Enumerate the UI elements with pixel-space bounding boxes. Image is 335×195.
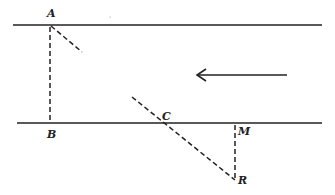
dashed-line-A-diagonal bbox=[51, 26, 82, 52]
dashed-line-C-R bbox=[132, 97, 235, 180]
label-B: B bbox=[46, 128, 56, 141]
label-M: M bbox=[237, 125, 251, 138]
label-R: R bbox=[237, 174, 247, 187]
label-C: C bbox=[162, 110, 171, 123]
direction-arrow-icon bbox=[197, 69, 287, 81]
physics-diagram: A B C M R bbox=[0, 0, 335, 195]
speck-dot bbox=[109, 16, 110, 17]
label-A: A bbox=[46, 7, 56, 20]
